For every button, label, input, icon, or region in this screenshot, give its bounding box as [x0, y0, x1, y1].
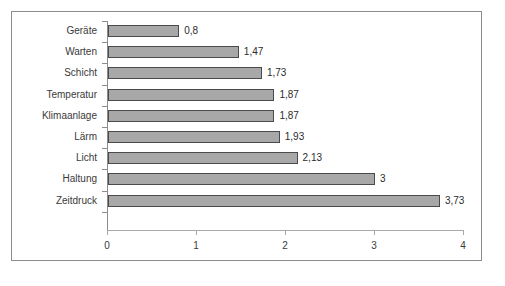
category-label: Zeitdruck	[56, 195, 97, 207]
chart-frame: 0,81,471,731,871,871,932,1333,73 01234 G…	[11, 11, 482, 261]
x-axis-tick-label: 4	[460, 240, 466, 251]
y-axis-tick	[102, 63, 107, 64]
bar-value-label: 1,87	[279, 110, 298, 122]
x-axis-tick-label: 0	[104, 240, 110, 251]
bar	[108, 110, 274, 122]
x-axis-tick	[196, 230, 197, 235]
y-axis-tick	[102, 21, 107, 22]
bar-value-label: 2,13	[303, 152, 322, 164]
bar-value-label: 3	[380, 173, 386, 185]
bar	[108, 67, 262, 79]
category-label: Klimaanlage	[42, 110, 97, 122]
x-axis-tick-label: 3	[371, 240, 377, 251]
y-axis-tick	[102, 191, 107, 192]
category-label: Schicht	[64, 67, 97, 79]
bar-chart-plot-area: 0,81,471,731,871,871,932,1333,73 01234 G…	[12, 12, 481, 260]
bar-value-label: 0,8	[184, 25, 198, 37]
bar-value-label: 1,73	[267, 67, 286, 79]
category-label: Temperatur	[46, 89, 97, 101]
bar	[108, 89, 274, 101]
category-label: Geräte	[66, 25, 97, 37]
x-axis-tick	[374, 230, 375, 235]
x-axis-tick	[285, 230, 286, 235]
y-axis-tick	[102, 148, 107, 149]
bar	[108, 173, 375, 185]
bar	[108, 46, 239, 58]
x-axis-tick	[107, 230, 108, 235]
x-axis-tick-label: 2	[282, 240, 288, 251]
y-axis-tick	[102, 106, 107, 107]
bar-value-label: 3,73	[445, 195, 464, 207]
category-label: Licht	[76, 152, 97, 164]
y-axis-tick	[102, 42, 107, 43]
y-axis-tick	[102, 127, 107, 128]
category-label: Warten	[65, 46, 97, 58]
category-label: Haltung	[63, 173, 97, 185]
y-axis-tick	[102, 169, 107, 170]
category-label: Lärm	[74, 131, 97, 143]
bar	[108, 25, 179, 37]
bar-value-label: 1,93	[285, 131, 304, 143]
bar	[108, 131, 280, 143]
y-axis-tick	[102, 212, 107, 213]
bar	[108, 195, 440, 207]
bar-value-label: 1,87	[279, 89, 298, 101]
x-axis-tick-label: 1	[193, 240, 199, 251]
bar	[108, 152, 298, 164]
x-axis-tick	[463, 230, 464, 235]
y-axis-tick	[102, 85, 107, 86]
bar-value-label: 1,47	[244, 46, 263, 58]
